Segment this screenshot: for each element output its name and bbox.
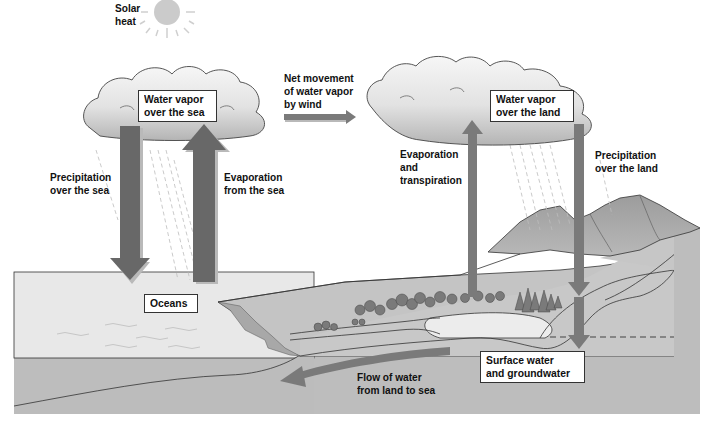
rain-over-sea [96, 150, 200, 280]
oceans-box: Oceans [144, 294, 198, 313]
precipitation-over-sea-label: Precipitation over the sea [50, 171, 111, 197]
evaporation-from-sea-label: Evaporation from the sea [224, 171, 284, 197]
evaporation-transpiration-label: Evaporation and transpiration [400, 148, 462, 187]
precipitation-over-sea-arrow [110, 126, 150, 284]
surface-groundwater-text: Surface water and groundwater [486, 354, 570, 380]
precipitation-over-land-label: Precipitation over the land [595, 149, 658, 175]
water-cycle-diagram [0, 0, 721, 435]
evaporation-from-sea-arrow [182, 124, 230, 284]
sun-icon [140, 0, 195, 38]
net-movement-label: Net movement of water vapor by wind [284, 72, 354, 111]
flow-land-to-sea-label: Flow of water from land to sea [357, 371, 435, 397]
surface-groundwater-box: Surface water and groundwater [480, 351, 585, 383]
net-movement-arrow [284, 110, 356, 124]
water-vapor-over-land-box: Water vapor over the land [490, 90, 574, 122]
evaporation-transpiration-arrow [462, 120, 483, 297]
water-vapor-over-land-text: Water vapor over the land [496, 93, 560, 119]
water-vapor-over-sea-text: Water vapor over the sea [144, 93, 204, 119]
oceans-text: Oceans [150, 297, 187, 310]
water-vapor-over-sea-box: Water vapor over the sea [138, 90, 217, 122]
solar-heat-label: Solar heat [115, 2, 140, 28]
